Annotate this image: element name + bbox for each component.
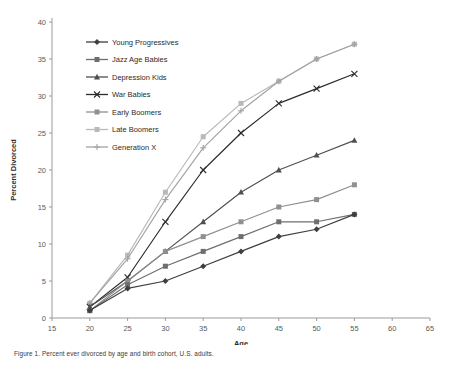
legend-label: Jazz Age Babies [112,55,168,64]
marker-square [239,101,244,106]
legend-label: Young Progressives [112,38,179,47]
x-tick-label: 65 [426,324,434,333]
y-tick-label: 0 [42,314,46,323]
series-young-progressives [87,211,358,313]
marker-square [163,249,168,254]
marker-square [314,197,319,202]
y-tick-label: 15 [38,203,46,212]
marker-diamond [314,226,320,232]
legend-label: Generation X [112,143,156,152]
y-tick-label: 25 [38,129,46,138]
marker-square [314,219,319,224]
x-tick-label: 20 [86,324,94,333]
legend-label: War Babies [112,90,151,99]
legend-item-generation-x[interactable]: Generation X [86,143,156,152]
chart-figure: 05101520253035401520253035404550556065Pe… [0,0,456,370]
x-tick-label: 40 [237,324,245,333]
series-line [90,44,355,303]
y-tick-label: 35 [38,55,46,64]
legend-label: Early Boomers [112,108,161,117]
marker-square [95,57,100,62]
marker-diamond [238,248,244,254]
legend-item-depression-kids[interactable]: Depression Kids [86,73,167,82]
marker-triangle [238,189,244,195]
y-tick-label: 30 [38,92,46,101]
y-tick-label: 10 [38,240,46,249]
series-war-babies [87,71,358,310]
y-tick-label: 40 [38,18,46,27]
marker-square [201,234,206,239]
marker-square [276,219,281,224]
marker-diamond [276,234,282,240]
marker-square [201,134,206,139]
y-tick-label: 20 [38,166,46,175]
legend-item-young-progressives[interactable]: Young Progressives [86,38,179,47]
marker-square [163,190,168,195]
legend-item-war-babies[interactable]: War Babies [86,90,151,99]
x-tick-label: 30 [161,324,169,333]
series-line [90,44,355,303]
line-chart: 05101520253035401520253035404550556065Pe… [0,0,456,345]
legend-item-late-boomers[interactable]: Late Boomers [86,125,159,134]
x-tick-label: 15 [48,324,56,333]
x-tick-label: 25 [123,324,131,333]
x-tick-label: 35 [199,324,207,333]
legend-item-jazz-age-babies[interactable]: Jazz Age Babies [86,55,168,64]
marker-square [239,234,244,239]
x-tick-label: 45 [275,324,283,333]
legend-item-early-boomers[interactable]: Early Boomers [86,108,161,117]
series-line [90,185,355,311]
y-tick-label: 5 [42,277,46,286]
marker-diamond [162,278,168,284]
chart-svg: 05101520253035401520253035404550556065Pe… [0,0,456,345]
marker-triangle [351,137,357,143]
x-tick-label: 50 [312,324,320,333]
marker-square [95,127,100,132]
marker-square [201,249,206,254]
marker-diamond [94,39,100,45]
marker-square [276,205,281,210]
x-tick-label: 60 [388,324,396,333]
legend-label: Depression Kids [112,73,167,82]
marker-square [352,182,357,187]
marker-square [239,219,244,224]
x-tick-label: 55 [350,324,358,333]
figure-caption: Figure 1. Percent ever divorced by age a… [0,344,456,370]
marker-square [163,264,168,269]
figure-caption-text: Figure 1. Percent ever divorced by age a… [0,344,456,359]
legend-label: Late Boomers [112,125,159,134]
y-axis-title: Percent Divorced [9,139,18,201]
marker-square [95,110,100,115]
marker-diamond [200,263,206,269]
series-early-boomers [87,182,357,313]
